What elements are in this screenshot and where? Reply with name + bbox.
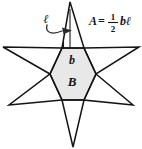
- formula-fraction-numerator: 1: [111, 12, 116, 22]
- star-diagram-svg: Six-pointed star area diagram Six-pointe…: [0, 0, 142, 149]
- label-hexagon-B: B: [67, 74, 77, 89]
- label-slant-height: ℓ: [43, 12, 48, 26]
- star-area-figure: Six-pointed star area diagram Six-pointe…: [0, 0, 142, 149]
- leader-line-slant-height: [47, 25, 62, 33]
- formula-factors: bℓ: [120, 14, 131, 28]
- star-point-top: [62, 2, 84, 48]
- area-formula: A = 1 2 bℓ: [88, 12, 131, 34]
- formula-lhs: A: [88, 14, 97, 28]
- formula-fraction-denominator: 2: [111, 24, 116, 34]
- formula-equals: =: [98, 14, 105, 28]
- label-base-b: b: [69, 53, 75, 67]
- star-point-bottom: [62, 100, 84, 147]
- right-angle-mark-icon: [64, 42, 71, 49]
